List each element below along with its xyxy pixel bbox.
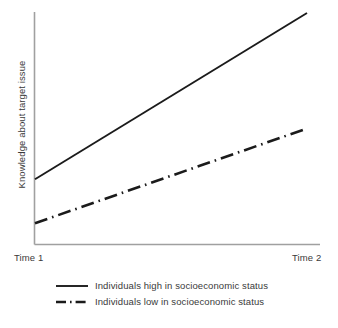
x-axis-tick-time-2: Time 2 <box>292 252 321 263</box>
legend-label-high-ses: Individuals high in socioeconomic status <box>95 280 268 291</box>
chart-figure: Time 1 Time 2 Knowledge about target iss… <box>0 0 338 328</box>
legend-marker-solid-line-icon <box>56 278 88 294</box>
legend-item-low-ses: Individuals low in socioeconomic status <box>0 294 338 310</box>
legend-marker-dash-dot-line-icon <box>56 294 88 310</box>
series-line-low-ses <box>35 129 307 224</box>
series-line-high-ses <box>35 13 307 179</box>
chart-legend: Individuals high in socioeconomic status… <box>0 278 338 310</box>
legend-item-high-ses: Individuals high in socioeconomic status <box>0 278 338 294</box>
y-axis-label: Knowledge about target issue <box>16 25 27 225</box>
x-axis-tick-time-1: Time 1 <box>14 252 43 263</box>
legend-label-low-ses: Individuals low in socioeconomic status <box>95 296 264 307</box>
